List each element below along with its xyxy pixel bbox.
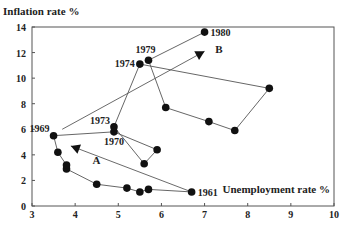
phillips-curve-chart: 34567891002468101214 AB 1961196919701973… — [0, 0, 351, 231]
y-tick-label: 10 — [16, 73, 26, 84]
series-line — [54, 32, 270, 192]
x-tick-label: 9 — [288, 209, 293, 220]
arrow-a-label: A — [92, 154, 100, 166]
data-point — [145, 186, 153, 194]
x-axis-label: Unemployment rate % — [222, 183, 330, 195]
data-point — [110, 123, 118, 131]
y-tick-label: 6 — [21, 124, 26, 135]
data-point — [205, 118, 213, 126]
x-tick-label: 8 — [245, 209, 250, 220]
x-tick-label: 7 — [202, 209, 207, 220]
year-label: 1970 — [104, 136, 124, 147]
year-label: 1979 — [135, 44, 155, 55]
y-tick-label: 0 — [21, 201, 26, 212]
x-tick-label: 6 — [159, 209, 164, 220]
data-point — [93, 180, 101, 188]
x-tick-label: 3 — [30, 209, 35, 220]
data-point — [54, 149, 62, 157]
data-point — [136, 188, 144, 196]
x-tick-label: 10 — [329, 209, 339, 220]
year-label: 1969 — [30, 123, 50, 134]
year-label: 1973 — [90, 115, 110, 126]
data-point — [50, 132, 58, 140]
data-point — [265, 85, 273, 93]
data-point — [201, 28, 209, 36]
data-point — [231, 127, 239, 135]
x-tick-label: 5 — [116, 209, 121, 220]
data-point — [63, 161, 71, 169]
y-tick-label: 8 — [21, 99, 26, 110]
data-point — [145, 56, 153, 64]
y-tick-label: 2 — [21, 175, 26, 186]
y-axis-label: Inflation rate % — [3, 5, 79, 17]
data-point — [162, 104, 170, 112]
data-point — [153, 146, 161, 154]
y-tick-label: 12 — [16, 48, 26, 59]
data-point — [140, 160, 148, 168]
arrowhead-icon — [194, 51, 204, 60]
year-label: 1961 — [198, 187, 218, 198]
arrow-a-line — [71, 146, 192, 192]
data-path — [54, 32, 270, 192]
arrow-b-label: B — [215, 43, 223, 55]
year-label: 1974 — [115, 58, 135, 69]
x-tick-label: 4 — [73, 209, 78, 220]
plot-frame — [32, 27, 334, 206]
year-label: 1980 — [211, 27, 231, 38]
y-tick-label: 4 — [21, 150, 26, 161]
plot-border — [32, 27, 334, 206]
data-point — [188, 188, 196, 196]
y-tick-label: 14 — [16, 22, 26, 33]
data-point — [123, 184, 131, 192]
data-point — [136, 60, 144, 68]
